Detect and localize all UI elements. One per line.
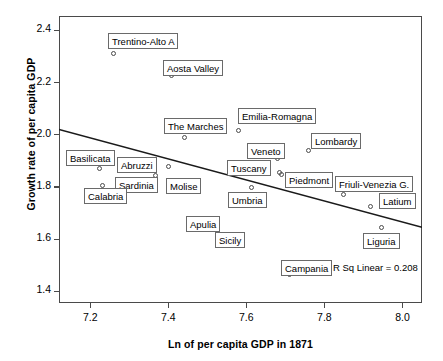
- data-point-label: Apulia: [186, 216, 220, 232]
- data-point-label: Trentino-Alto A: [108, 33, 178, 49]
- data-point-label: Aosta Valley: [163, 60, 223, 76]
- x-tick-label: 8.0: [384, 311, 420, 323]
- data-point-label: The Marches: [164, 118, 227, 134]
- y-tick-label: 1.6: [36, 231, 51, 243]
- data-point-label: Calabria: [84, 188, 127, 204]
- x-tick-mark: [246, 303, 247, 308]
- x-axis-title: Ln of per capita GDP in 1871: [59, 338, 422, 350]
- x-tick-mark: [90, 303, 91, 308]
- data-point-label: Sicily: [215, 232, 245, 248]
- x-tick-mark: [402, 303, 403, 308]
- data-point-marker: [379, 225, 384, 230]
- data-point-label: Liguria: [363, 233, 400, 249]
- y-tick-label: 1.8: [36, 179, 51, 191]
- data-point-marker: [182, 135, 187, 140]
- x-tick-label: 7.8: [306, 311, 342, 323]
- data-point-label: Friuli-Venezia G.: [335, 176, 413, 192]
- y-tick-mark: [54, 186, 59, 187]
- x-tick-mark: [324, 303, 325, 308]
- data-point-label: Piedmont: [285, 172, 333, 188]
- y-tick-mark: [54, 239, 59, 240]
- x-tick-label: 7.2: [72, 311, 108, 323]
- data-point-label: Emilia-Romagna: [238, 108, 316, 124]
- y-tick-label: 2.4: [36, 22, 51, 34]
- data-point-marker: [166, 164, 171, 169]
- data-point-label: Basilicata: [66, 150, 115, 166]
- data-point-label: Veneto: [247, 143, 285, 159]
- data-point-label: Lombardy: [311, 133, 361, 149]
- y-tick-mark: [54, 82, 59, 83]
- scatter-plot-figure: Growth rate of per capita GDP Ln of per …: [0, 0, 443, 361]
- data-point-label: Umbria: [228, 192, 267, 208]
- data-point-marker: [249, 185, 254, 190]
- data-point-label: Campania: [281, 260, 332, 276]
- x-tick-mark: [168, 303, 169, 308]
- data-point-label: Molise: [166, 178, 201, 194]
- data-point-label: Abruzzi: [117, 157, 157, 173]
- y-tick-mark: [54, 291, 59, 292]
- x-tick-label: 7.4: [150, 311, 186, 323]
- y-tick-label: 2.2: [36, 75, 51, 87]
- data-point-label: Tuscany: [227, 160, 271, 176]
- data-point-label: Latium: [379, 193, 416, 209]
- y-axis-title: Growth rate of per capita GDP: [25, 9, 37, 259]
- y-tick-label: 1.4: [36, 283, 51, 295]
- x-tick-label: 7.6: [228, 311, 264, 323]
- r-squared-annotation: R Sq Linear = 0.208: [333, 262, 418, 273]
- y-tick-mark: [54, 134, 59, 135]
- y-tick-mark: [54, 30, 59, 31]
- y-tick-label: 2.0: [36, 127, 51, 139]
